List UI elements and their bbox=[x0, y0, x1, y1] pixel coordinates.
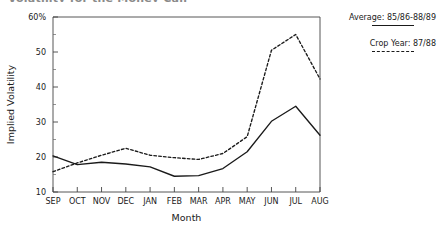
y-tick-label: 40 bbox=[36, 83, 46, 92]
plot-frame bbox=[53, 17, 320, 192]
y-tick-label: 60% bbox=[28, 13, 46, 22]
legend-entry-average: Average: 85/86-88/89 bbox=[320, 12, 436, 29]
x-tick-label: AUG bbox=[311, 197, 329, 206]
legend-swatch-solid bbox=[372, 25, 414, 29]
y-tick-label: 30 bbox=[36, 118, 46, 127]
series-line-average bbox=[53, 106, 320, 176]
series-line-crop-year bbox=[53, 35, 320, 172]
legend-swatch-dashed bbox=[372, 51, 414, 55]
x-tick-label: JAN bbox=[142, 197, 157, 206]
x-tick-label: DEC bbox=[117, 197, 134, 206]
chart-figure: Volatility for the Money Call 1020304050… bbox=[0, 0, 438, 232]
y-tick-label: 20 bbox=[36, 153, 46, 162]
x-tick-label: MAR bbox=[190, 197, 208, 206]
x-tick-label: JUL bbox=[288, 197, 302, 206]
x-tick-label: JUN bbox=[263, 197, 278, 206]
x-tick-label: FEB bbox=[167, 197, 182, 206]
x-tick-label: APR bbox=[215, 197, 231, 206]
legend-label-crop-year: Crop Year: 87/88 bbox=[320, 38, 436, 49]
y-tick-label: 10 bbox=[36, 188, 46, 197]
legend-entry-crop-year: Crop Year: 87/88 bbox=[320, 38, 436, 55]
x-tick-label: SEP bbox=[46, 197, 61, 206]
x-axis-title: Month bbox=[172, 212, 202, 223]
x-tick-label: OCT bbox=[69, 197, 86, 206]
x-tick-label: MAY bbox=[239, 197, 256, 206]
x-tick-label: NOV bbox=[93, 197, 111, 206]
legend-label-average: Average: 85/86-88/89 bbox=[320, 12, 436, 23]
chart-legend: Average: 85/86-88/89 Crop Year: 87/88 bbox=[320, 12, 436, 64]
y-axis-title: Implied Volatility bbox=[5, 64, 16, 144]
y-tick-label: 50 bbox=[36, 48, 46, 57]
